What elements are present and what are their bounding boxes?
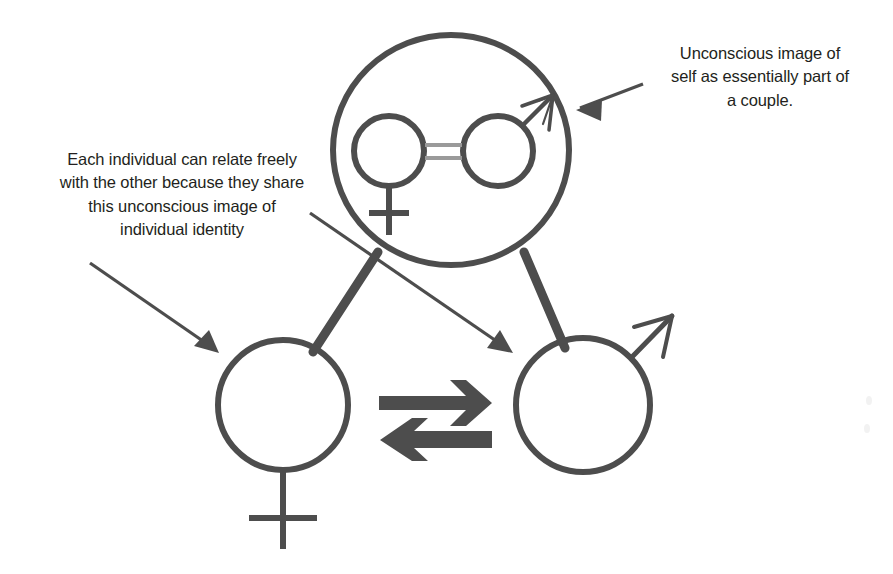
connector-couple-to-individual-male: [524, 252, 565, 348]
relate-back-arrow: [380, 418, 492, 461]
scan-artifact-speck-top: [866, 396, 872, 405]
annotation-identity-leader-arrow-left: [90, 263, 219, 353]
annotation-individual-identity: Each individual can relate freely with t…: [22, 148, 342, 242]
individual-female-symbol: [218, 340, 348, 549]
scan-artifact-speck-bottom: [864, 424, 870, 433]
relate-forward-arrow: [379, 380, 492, 426]
individual-male-symbol: [516, 316, 672, 472]
inner-male-symbol: [463, 95, 553, 186]
inner-pair-double-link: [425, 145, 462, 158]
inner-female-symbol: [354, 116, 424, 235]
diagram-canvas: Unconscious image of self as essentially…: [0, 0, 893, 574]
annotation-couple-leader-arrow: [576, 84, 643, 121]
annotation-unconscious-couple-image: Unconscious image of self as essentially…: [640, 42, 880, 112]
connector-couple-to-individual-female: [313, 252, 378, 352]
